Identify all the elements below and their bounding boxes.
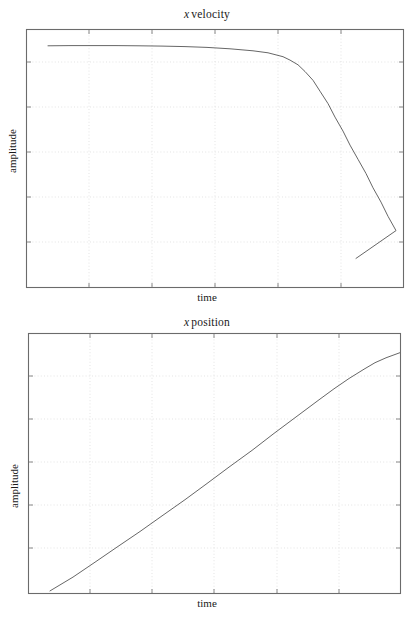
plot-area-velocity <box>26 29 404 288</box>
y-axis-label-position: amplitude <box>8 456 20 516</box>
y-axis-label-velocity: amplitude <box>6 121 18 181</box>
plot-title-text: velocity <box>191 8 230 20</box>
figure-x-velocity: xvelocity amplitude <box>0 0 414 310</box>
plot-title-velocity: xvelocity <box>0 8 414 20</box>
plot-background <box>28 333 401 594</box>
x-axis-label-position: time <box>0 597 414 609</box>
figure-x-position: xposition amplitude <box>0 310 414 618</box>
plot-title-text: position <box>191 316 230 328</box>
plot-area-position <box>28 333 401 594</box>
plot-title-position: xposition <box>0 316 414 328</box>
x-axis-label-velocity: time <box>0 291 414 303</box>
